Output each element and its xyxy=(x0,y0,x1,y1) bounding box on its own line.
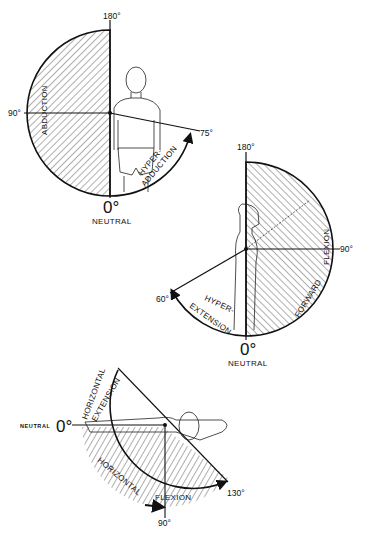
flexion-label-0: 0° xyxy=(240,340,256,359)
horizontal-flexion-label-2: FLEXION xyxy=(155,493,191,502)
flexion-label-60: 60° xyxy=(156,294,169,304)
abduction-label-75: 75° xyxy=(200,128,213,138)
abduction-neutral-label: NEUTRAL xyxy=(92,217,132,226)
hyperextension-line xyxy=(170,249,246,293)
horizontal-label-130: 130° xyxy=(227,488,245,498)
flexion-neutral-label: NEUTRAL xyxy=(228,359,268,368)
abduction-label-90: 90° xyxy=(8,108,21,118)
horizontal-neutral-label: NEUTRAL xyxy=(20,423,51,429)
hyperadduction-line xyxy=(110,113,200,131)
horizontal-label-0: 0° xyxy=(56,417,72,436)
abduction-arc-label: ABDUCTION xyxy=(40,85,49,135)
horizontal-diagram: NEUTRAL 0° 90° 130° HORIZONTAL EXTENSION… xyxy=(20,367,245,528)
flexion-arc-label: FLEXION xyxy=(322,229,331,265)
abduction-label-180: 180° xyxy=(103,11,121,21)
horizontal-label-90: 90° xyxy=(158,518,171,528)
flexion-label-90: 90° xyxy=(340,244,353,254)
flexion-diagram: 180° 90° 60° 0° NEUTRAL FORWARD FLEXION … xyxy=(156,142,353,368)
flexion-label-180: 180° xyxy=(237,142,255,152)
abduction-label-0: 0° xyxy=(103,198,119,217)
abduction-diagram: 180° 90° 75° 0° NEUTRAL ABDUCTION HYPER-… xyxy=(8,11,213,226)
shoulder-rom-figure: 180° 90° 75° 0° NEUTRAL ABDUCTION HYPER-… xyxy=(0,0,365,544)
